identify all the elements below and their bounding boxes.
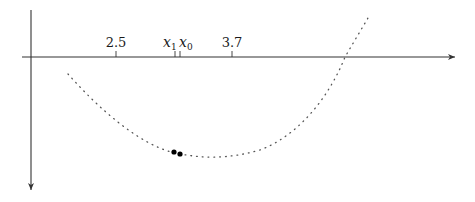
x1-main: x [163, 34, 171, 50]
point-x1 [171, 149, 176, 154]
tick-label-x0: x0 [179, 34, 193, 52]
tick-label-2-5: 2.5 [106, 35, 127, 50]
tick-label-3-7: 3.7 [222, 35, 243, 50]
x0-subscript: 0 [187, 42, 193, 52]
x1-subscript: 1 [171, 42, 177, 52]
x0-main: x [179, 34, 187, 50]
point-x0 [177, 151, 182, 156]
tick-label-x1: x1 [163, 34, 177, 52]
diagram-canvas: 2.5 x1 x0 3.7 [0, 0, 475, 202]
